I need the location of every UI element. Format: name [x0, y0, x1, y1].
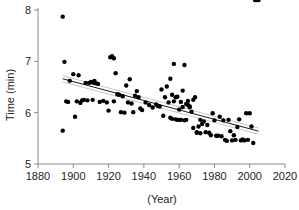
data-point — [168, 77, 172, 81]
y-tick-label: 6 — [25, 107, 31, 119]
data-point — [112, 99, 116, 103]
data-point — [170, 93, 174, 97]
data-point — [163, 95, 167, 99]
data-point — [112, 56, 116, 60]
data-point — [232, 133, 236, 137]
data-point — [225, 139, 229, 143]
x-tick-label: 1920 — [96, 170, 120, 182]
data-point — [188, 104, 192, 108]
data-point — [191, 126, 195, 130]
data-point — [105, 100, 109, 104]
data-point — [218, 115, 222, 119]
data-point — [124, 83, 128, 87]
data-point — [209, 133, 213, 137]
x-axis-title: (Year) — [147, 193, 177, 205]
data-point — [61, 128, 65, 132]
data-point — [182, 63, 186, 67]
data-point — [135, 89, 139, 93]
data-point — [172, 62, 176, 66]
data-point — [150, 105, 154, 109]
data-point — [175, 95, 179, 99]
data-point — [96, 82, 100, 86]
data-point — [177, 107, 181, 111]
data-point — [129, 101, 133, 105]
data-point — [212, 118, 216, 122]
data-point — [61, 14, 65, 18]
y-tick-label: 8 — [25, 4, 31, 16]
data-point — [193, 95, 197, 99]
data-point — [189, 109, 193, 113]
data-point — [219, 134, 223, 138]
data-point — [186, 99, 190, 103]
data-point — [128, 77, 132, 81]
data-point — [106, 108, 110, 112]
data-point — [85, 98, 89, 102]
y-tick-label: 5 — [25, 158, 31, 170]
data-point — [249, 124, 253, 128]
data-point — [113, 71, 117, 75]
y-tick-label: 7 — [25, 55, 31, 67]
y-axis-title: Time (min) — [4, 69, 16, 121]
data-point — [120, 94, 124, 98]
data-point — [122, 110, 126, 114]
data-point — [166, 100, 170, 104]
data-point — [221, 118, 225, 122]
x-tick-label: 1900 — [61, 170, 85, 182]
data-point — [159, 87, 163, 91]
data-point — [131, 110, 135, 114]
data-point — [235, 125, 239, 129]
data-point — [76, 73, 80, 77]
data-point — [198, 131, 202, 135]
data-point — [180, 88, 184, 92]
data-point — [233, 138, 237, 142]
x-axis-ticks: 18801900192019401960198020002020 — [26, 164, 297, 182]
data-point — [68, 79, 72, 83]
data-point — [180, 105, 184, 109]
data-point — [71, 72, 75, 76]
data-point — [246, 138, 250, 142]
data-point — [202, 119, 206, 123]
x-tick-label: 2000 — [237, 170, 261, 182]
data-point — [251, 141, 255, 145]
data-point — [73, 115, 77, 119]
x-tick-label: 1960 — [167, 170, 191, 182]
data-point — [228, 129, 232, 133]
data-point — [210, 111, 214, 115]
x-tick-label: 1980 — [202, 170, 226, 182]
data-point — [62, 60, 66, 64]
chart-canvas: 5678 18801900192019401960198020002020 Ti… — [0, 0, 299, 210]
data-point — [143, 100, 147, 104]
data-point — [172, 99, 176, 103]
scatter-chart: 5678 18801900192019401960198020002020 Ti… — [0, 0, 299, 210]
data-point — [90, 98, 94, 102]
x-tick-label: 2020 — [273, 170, 297, 182]
data-point — [165, 84, 169, 88]
data-point — [237, 117, 241, 121]
data-point — [161, 114, 165, 118]
data-point — [248, 111, 252, 115]
y-axis-ticks: 5678 — [25, 4, 38, 170]
data-point — [205, 123, 209, 127]
data-point — [147, 103, 151, 107]
data-point — [184, 118, 188, 122]
axes: 5678 18801900192019401960198020002020 — [25, 4, 297, 182]
data-point — [66, 100, 70, 104]
data-point — [179, 100, 183, 104]
data-point — [140, 108, 144, 112]
data-point — [226, 118, 230, 122]
x-tick-label: 1880 — [26, 170, 50, 182]
data-point — [196, 124, 200, 128]
data-point — [158, 104, 162, 108]
data-point — [136, 95, 140, 99]
x-tick-label: 1940 — [132, 170, 156, 182]
